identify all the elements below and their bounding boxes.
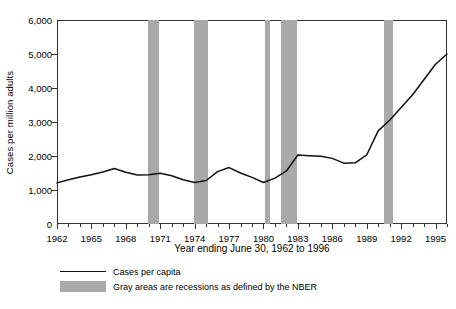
y-axis-tick-mark — [51, 122, 57, 123]
x-axis-minor-tick — [149, 224, 150, 227]
gray-swatch-icon — [60, 281, 106, 292]
chart-figure: Cases per million adults 01,0002,0003,00… — [0, 0, 456, 309]
plot-area: 01,0002,0003,0004,0005,0006,000 19621965… — [57, 20, 447, 224]
series-line — [57, 54, 447, 183]
x-axis-major-tick — [367, 224, 368, 229]
x-axis-minor-tick — [206, 224, 207, 227]
x-axis-minor-tick — [424, 224, 425, 227]
series-line-layer — [57, 20, 447, 224]
y-axis-tick-mark — [51, 190, 57, 191]
y-axis-tick-label: 4,000 — [6, 83, 52, 94]
x-axis-minor-tick — [309, 224, 310, 227]
x-axis-major-tick — [298, 224, 299, 229]
y-axis-tick-mark — [51, 88, 57, 89]
chart-legend: Cases per capita Gray areas are recessio… — [60, 264, 440, 294]
y-axis-tick-label: 5,000 — [6, 49, 52, 60]
x-axis-minor-tick — [447, 224, 448, 227]
x-axis-minor-tick — [137, 224, 138, 227]
x-axis-minor-tick — [218, 224, 219, 227]
legend-item-label: Gray areas are recessions as defined by … — [113, 282, 317, 292]
x-axis-minor-tick — [390, 224, 391, 227]
legend-swatch-key — [60, 281, 106, 292]
x-axis-minor-tick — [413, 224, 414, 227]
y-axis-tick-label: 6,000 — [6, 15, 52, 26]
x-axis-minor-tick — [286, 224, 287, 227]
y-axis-tick-mark — [51, 156, 57, 157]
legend-line-key — [60, 266, 106, 277]
y-axis-tick-label: 3,000 — [6, 117, 52, 128]
legend-item-line: Cases per capita — [60, 264, 440, 279]
x-axis-minor-tick — [344, 224, 345, 227]
x-axis-minor-tick — [241, 224, 242, 227]
x-axis-major-tick — [126, 224, 127, 229]
x-axis-major-tick — [332, 224, 333, 229]
x-axis-minor-tick — [172, 224, 173, 227]
x-axis-major-tick — [436, 224, 437, 229]
x-axis-minor-tick — [114, 224, 115, 227]
x-axis-minor-tick — [183, 224, 184, 227]
x-axis-major-tick — [57, 224, 58, 229]
x-axis-major-tick — [160, 224, 161, 229]
x-axis-minor-tick — [103, 224, 104, 227]
x-axis-major-tick — [263, 224, 264, 229]
y-axis-tick-label: 2,000 — [6, 151, 52, 162]
x-axis-minor-tick — [378, 224, 379, 227]
x-axis-minor-tick — [321, 224, 322, 227]
x-axis-minor-tick — [252, 224, 253, 227]
x-axis-major-tick — [195, 224, 196, 229]
x-axis-major-tick — [91, 224, 92, 229]
x-axis-minor-tick — [275, 224, 276, 227]
x-axis-title: Year ending June 30, 1962 to 1996 — [57, 243, 447, 254]
line-swatch-icon — [60, 271, 106, 272]
legend-item-label: Cases per capita — [113, 267, 181, 277]
x-axis-minor-tick — [68, 224, 69, 227]
x-axis-minor-tick — [80, 224, 81, 227]
x-axis-major-tick — [229, 224, 230, 229]
x-axis-minor-tick — [355, 224, 356, 227]
y-axis-tick-mark — [51, 54, 57, 55]
y-axis-tick-label: 0 — [6, 219, 52, 230]
x-axis-major-tick — [401, 224, 402, 229]
legend-item-band: Gray areas are recessions as defined by … — [60, 279, 440, 294]
y-axis-tick-label: 1,000 — [6, 185, 52, 196]
